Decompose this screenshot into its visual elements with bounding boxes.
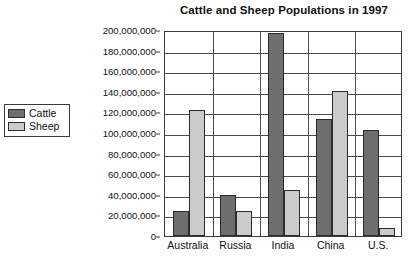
- group-separator: [260, 32, 261, 236]
- y-tick-label: 120,000,000: [103, 108, 156, 118]
- y-tick-label: 140,000,000: [103, 88, 156, 98]
- group-separator: [308, 32, 309, 236]
- bar-group: [355, 32, 403, 236]
- y-tick-mark: [156, 134, 160, 135]
- legend-item-cattle: Cattle: [8, 107, 66, 120]
- y-tick-mark: [156, 92, 160, 93]
- legend-label-sheep: Sheep: [29, 121, 59, 132]
- group-separator: [355, 32, 356, 236]
- bar-sheep-russia[interactable]: [236, 211, 252, 236]
- bar-cattle-russia[interactable]: [220, 195, 236, 236]
- x-tick-label: India: [272, 239, 295, 252]
- legend-item-sheep: Sheep: [8, 120, 66, 133]
- y-tick-label: 80,000,000: [108, 150, 156, 160]
- legend-label-cattle: Cattle: [29, 108, 56, 119]
- bar-group: [260, 32, 308, 236]
- y-tick-label: 160,000,000: [103, 67, 156, 77]
- y-tick-label: 100,000,000: [103, 129, 156, 139]
- y-tick-mark: [156, 31, 160, 32]
- y-tick-mark: [156, 195, 160, 196]
- bar-group: [308, 32, 356, 236]
- bar-cattle-china[interactable]: [316, 119, 332, 236]
- chart-legend: Cattle Sheep: [4, 104, 70, 137]
- y-tick-label: 20,000,000: [108, 211, 156, 221]
- bar-cattle-us[interactable]: [363, 130, 379, 236]
- y-tick-mark: [156, 113, 160, 114]
- legend-swatch-cattle: [8, 109, 25, 118]
- y-tick-label: 40,000,000: [108, 191, 156, 201]
- y-tick-mark: [156, 51, 160, 52]
- y-tick-mark: [156, 154, 160, 155]
- y-tick-label: 60,000,000: [108, 170, 156, 180]
- legend-swatch-sheep: [8, 122, 25, 131]
- y-tick-mark: [156, 72, 160, 73]
- bar-sheep-india[interactable]: [284, 190, 300, 236]
- bar-group: [165, 32, 213, 236]
- bars-layer: [165, 32, 401, 236]
- y-tick-mark: [156, 216, 160, 217]
- x-axis: AustraliaRussiaIndiaChinaU.S.: [164, 239, 402, 257]
- x-tick-label: Australia: [167, 239, 208, 252]
- group-separator: [213, 32, 214, 236]
- y-axis: 200,000,000180,000,000160,000,000140,000…: [86, 31, 160, 237]
- y-tick-mark: [156, 175, 160, 176]
- bar-sheep-australia[interactable]: [189, 110, 205, 236]
- chart-title: Cattle and Sheep Populations in 1997: [164, 4, 404, 16]
- bar-cattle-india[interactable]: [268, 33, 284, 236]
- bar-sheep-us[interactable]: [379, 228, 395, 236]
- x-tick-label: China: [317, 239, 344, 252]
- bar-sheep-china[interactable]: [332, 91, 348, 236]
- x-tick-label: U.S.: [368, 239, 388, 252]
- bar-group: [213, 32, 261, 236]
- y-tick-mark: [156, 237, 160, 238]
- x-tick-label: Russia: [219, 239, 251, 252]
- y-tick-label: 200,000,000: [103, 26, 156, 36]
- y-tick-label: 180,000,000: [103, 47, 156, 57]
- plot-area: [164, 31, 402, 237]
- bar-cattle-australia[interactable]: [173, 211, 189, 236]
